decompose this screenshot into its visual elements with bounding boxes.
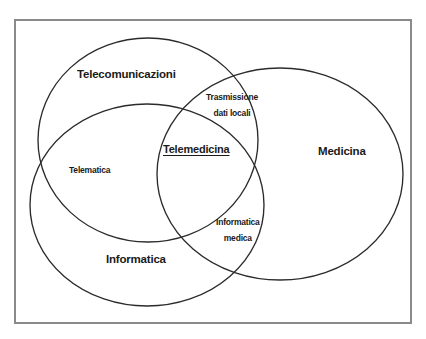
intersection-line-1: Informatica xyxy=(216,214,260,230)
set-label-medicina: Medicina xyxy=(318,146,366,158)
intersection-label-trasmissione-dati-locali: Trasmissione dati locali xyxy=(206,89,258,121)
intersection-label-telemedicina: Telemedicina xyxy=(163,144,229,155)
intersection-label-informatica-medica: Informatica medica xyxy=(216,214,260,246)
set-label-telecomunicazioni: Telecomunicazioni xyxy=(77,69,176,81)
set-label-informatica: Informatica xyxy=(106,254,166,266)
intersection-line-2: dati locali xyxy=(206,105,258,121)
intersection-line-1: Trasmissione xyxy=(206,89,258,105)
venn-diagram: Telecomunicazioni Medicina Informatica T… xyxy=(0,0,426,339)
intersection-line-2: medica xyxy=(216,230,260,246)
venn-label-layer: Telecomunicazioni Medicina Informatica T… xyxy=(0,0,426,339)
intersection-label-telematica: Telematica xyxy=(69,166,110,175)
